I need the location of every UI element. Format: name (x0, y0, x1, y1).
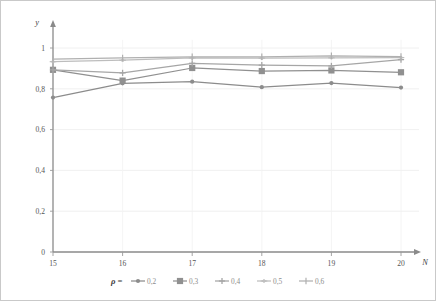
y-axis-label: y (34, 18, 39, 27)
x-tick-label: 20 (397, 259, 405, 268)
series-0-4 (50, 57, 404, 76)
data-marker (177, 278, 183, 284)
y-tick-labels-group: 00,20,40,60,81 (36, 44, 54, 257)
axes-group (50, 20, 421, 255)
y-axis-arrowhead (50, 20, 56, 27)
x-tick-labels-group: 151617181920 (49, 252, 405, 268)
data-marker (260, 85, 264, 89)
x-tick-label: 18 (258, 259, 266, 268)
legend-item-0-5[interactable]: 0,5 (257, 277, 283, 286)
data-marker (51, 95, 55, 99)
x-tick-label: 19 (328, 259, 336, 268)
y-tick-label: 1 (41, 44, 45, 53)
y-tick-label: 0,4 (36, 166, 46, 175)
legend-item-0-4[interactable]: 0,4 (215, 277, 241, 286)
data-marker (120, 78, 126, 84)
legend-item-0-3[interactable]: 0,3 (173, 277, 199, 286)
chart-svg: 00,20,40,60,81 151617181920 y N ρ =0,20,… (1, 1, 436, 301)
legend-item-0-2[interactable]: 0,2 (131, 277, 157, 286)
legend-label: 0,4 (231, 277, 241, 286)
legend-label: 0,2 (147, 277, 157, 286)
data-marker (136, 279, 140, 283)
legend-label: 0,3 (189, 277, 199, 286)
x-tick-label: 17 (188, 259, 196, 268)
legend-label: 0,6 (315, 277, 325, 286)
series-line (53, 68, 401, 81)
y-tick-label: 0,8 (36, 85, 46, 94)
series-0-2 (51, 80, 403, 100)
chart-legend: ρ =0,20,30,40,50,6 (110, 276, 325, 286)
chart-figure: 00,20,40,60,81 151617181920 y N ρ =0,20,… (0, 0, 436, 301)
y-tick-label: 0,6 (36, 125, 46, 134)
x-axis-arrowhead (414, 249, 421, 255)
data-marker (399, 85, 403, 89)
legend-title: ρ = (110, 276, 123, 286)
data-marker (190, 80, 194, 84)
data-marker (398, 69, 404, 75)
series-0-3 (50, 65, 404, 84)
x-axis-label: N (421, 258, 428, 267)
data-marker (329, 81, 333, 85)
series-line (53, 82, 401, 98)
x-tick-label: 15 (49, 259, 57, 268)
data-series-group (50, 53, 405, 100)
legend-item-0-6[interactable]: 0,6 (299, 277, 325, 286)
y-tick-label: 0,2 (36, 207, 46, 216)
x-tick-label: 16 (119, 259, 127, 268)
chart-plot-area: 00,20,40,60,81 151617181920 y N ρ =0,20,… (1, 1, 436, 301)
data-marker (259, 68, 265, 74)
y-tick-label: 0 (41, 248, 45, 257)
legend-label: 0,5 (273, 277, 283, 286)
